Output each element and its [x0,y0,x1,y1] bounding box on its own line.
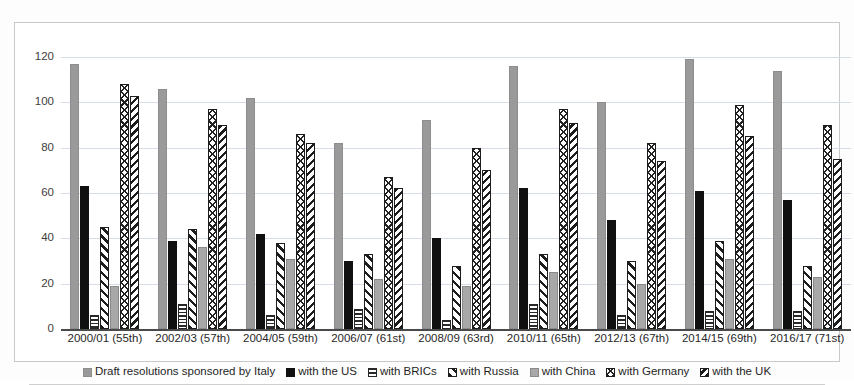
y-axis-tick-label: 80 [41,142,54,154]
legend-label: Draft resolutions sponsored by Italy [95,366,275,378]
bar [80,186,89,329]
bar-group [500,57,588,329]
bar [70,64,79,329]
bar-group [61,57,149,329]
bar [334,143,343,329]
bar [793,311,802,329]
y-axis-tick-label: 20 [41,278,54,290]
x-axis-line: 0 [61,329,851,331]
x-axis-tick-label: 2006/07 (61st) [324,333,412,345]
legend-item[interactable]: with the US [286,366,357,378]
x-axis-tick-label: 2016/17 (71st) [763,333,851,345]
legend-swatch-icon [530,368,539,377]
bar [120,84,129,329]
bar [735,105,744,329]
legend-swatch-icon [448,368,457,377]
y-axis-tick-label: 100 [35,97,54,109]
bar [833,159,842,329]
bar [218,125,227,329]
bar [276,243,285,329]
bar [705,311,714,329]
x-axis-labels: 2000/01 (55th)2002/03 (57th)2004/05 (59t… [61,333,851,345]
x-axis-tick-label: 2010/11 (65th) [500,333,588,345]
legend-label: with Germany [618,366,689,378]
chart-frame: 020406080100120 2000/01 (55th)2002/03 (5… [14,22,840,362]
legend-label: with Russia [460,366,519,378]
bar [823,125,832,329]
bar [168,241,177,329]
bar [695,191,704,329]
legend-item[interactable]: with China [530,366,596,378]
bar [803,266,812,329]
bar [374,279,383,329]
bar [597,102,606,329]
bar [783,200,792,329]
bar-group [237,57,325,329]
x-axis-tick-label: 2012/13 (67th) [588,333,676,345]
bar-group [412,57,500,329]
bar [637,284,646,329]
legend-item[interactable]: with Russia [448,366,519,378]
bar [657,161,666,329]
legend-swatch-icon [606,368,615,377]
bar-group [763,57,851,329]
chart-legend: Draft resolutions sponsored by Italywith… [29,361,825,383]
x-axis-tick-label: 2008/09 (63rd) [412,333,500,345]
bar [394,188,403,329]
bar [130,96,139,329]
bar [539,254,548,329]
bar [462,286,471,329]
y-axis-tick-label: 120 [35,51,54,63]
bar [569,123,578,329]
legend-label: with China [542,366,596,378]
x-axis-tick-label: 2014/15 (69th) [675,333,763,345]
legend-item[interactable]: with BRICs [368,366,437,378]
legend-swatch-icon [286,368,295,377]
legend-label: with the US [298,366,357,378]
legend-swatch-icon [700,368,709,377]
bar [813,277,822,329]
legend-label: with BRICs [380,366,437,378]
bar-group [675,57,763,329]
bar [472,148,481,329]
bar [296,134,305,329]
bar [519,188,528,329]
legend-item[interactable]: Draft resolutions sponsored by Italy [83,366,275,378]
bar [188,229,197,329]
y-axis-tick-label: 0 [48,323,54,335]
bar [306,143,315,329]
bar [773,71,782,329]
bar [549,272,558,329]
bar [208,109,217,329]
bar [90,315,99,329]
bar [442,320,451,329]
plot-area: 020406080100120 [61,57,851,329]
legend-swatch-icon [83,368,92,377]
bar [246,98,255,329]
bar [607,220,616,329]
x-axis-tick-label: 2002/03 (57th) [149,333,237,345]
legend-item[interactable]: with the UK [700,366,771,378]
legend-swatch-icon [368,368,377,377]
bar-group [149,57,237,329]
bar [509,66,518,329]
bar [627,261,636,329]
bar [617,315,626,329]
bar [647,143,656,329]
bar [364,254,373,329]
legend-label: with the UK [712,366,771,378]
bar [384,177,393,329]
bar [266,315,275,329]
bar [559,109,568,329]
legend-item[interactable]: with Germany [606,366,689,378]
bar [158,89,167,329]
bar [110,286,119,329]
bar [529,304,538,329]
bar [256,234,265,329]
bar [432,238,441,329]
bar [354,309,363,329]
bar [715,241,724,329]
bar-groups [61,57,851,329]
y-axis-tick-label: 40 [41,233,54,245]
